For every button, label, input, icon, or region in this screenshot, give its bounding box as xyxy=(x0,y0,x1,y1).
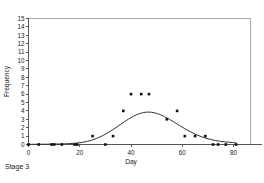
y-tick-label-12: 12 xyxy=(17,40,25,47)
x-axis-ticks: 020406080 xyxy=(27,145,238,156)
y-tick-label-6: 6 xyxy=(21,90,25,97)
data-point-17 xyxy=(194,135,197,138)
y-tick-label-4: 4 xyxy=(21,107,25,114)
x-axis-title: Day xyxy=(125,158,137,166)
x-tick-label-0: 0 xyxy=(27,149,31,156)
y-tick-label-15: 15 xyxy=(17,15,25,22)
data-point-0 xyxy=(27,143,30,146)
data-point-21 xyxy=(225,143,228,146)
data-point-15 xyxy=(176,110,179,113)
y-tick-label-11: 11 xyxy=(18,48,25,55)
y-tick-label-10: 10 xyxy=(17,57,25,64)
y-axis: 0123456789101112131415 Frequency xyxy=(3,15,29,148)
x-axis: 020406080 Day xyxy=(27,145,262,166)
data-point-18 xyxy=(204,135,207,138)
frequency-vs-day-scatter-chart: 0123456789101112131415 Frequency 0204060… xyxy=(0,0,264,183)
y-tick-label-1: 1 xyxy=(21,132,25,139)
y-axis-ticks: 0123456789101112131415 xyxy=(17,15,28,148)
y-tick-label-0: 0 xyxy=(21,141,25,148)
data-point-16 xyxy=(184,135,187,138)
y-tick-label-8: 8 xyxy=(21,74,25,81)
data-point-2 xyxy=(50,143,53,146)
data-point-10 xyxy=(122,110,125,113)
data-point-11 xyxy=(130,93,133,96)
y-tick-label-2: 2 xyxy=(21,124,25,131)
data-point-6 xyxy=(76,143,79,146)
data-point-8 xyxy=(104,143,107,146)
x-tick-label-80: 80 xyxy=(230,149,238,156)
data-point-22 xyxy=(235,143,238,146)
y-tick-label-13: 13 xyxy=(17,32,25,39)
y-tick-label-14: 14 xyxy=(17,23,25,30)
data-point-13 xyxy=(148,93,151,96)
x-tick-label-40: 40 xyxy=(127,149,135,156)
y-tick-label-5: 5 xyxy=(21,99,25,106)
y-tick-label-7: 7 xyxy=(21,82,25,89)
data-point-20 xyxy=(217,143,220,146)
data-point-7 xyxy=(91,135,94,138)
data-point-9 xyxy=(112,135,115,138)
y-tick-label-9: 9 xyxy=(21,65,25,72)
x-tick-label-60: 60 xyxy=(179,149,187,156)
y-axis-title: Frequency xyxy=(3,65,11,97)
data-point-3 xyxy=(53,143,56,146)
data-point-4 xyxy=(61,143,64,146)
data-point-12 xyxy=(140,93,143,96)
fitted-curve-layer xyxy=(29,112,237,144)
plot-border xyxy=(29,19,251,145)
data-point-5 xyxy=(73,143,76,146)
figure-container: 0123456789101112131415 Frequency 0204060… xyxy=(0,0,264,183)
x-tick-label-20: 20 xyxy=(76,149,84,156)
data-point-1 xyxy=(37,143,40,146)
y-tick-label-3: 3 xyxy=(21,116,25,123)
data-point-19 xyxy=(212,143,215,146)
fitted-curve xyxy=(29,112,237,144)
figure-caption: Stage 3 xyxy=(5,163,29,170)
plot-frame xyxy=(29,19,251,145)
data-point-14 xyxy=(166,118,169,121)
